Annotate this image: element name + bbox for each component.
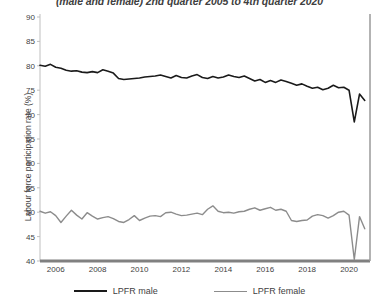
legend-label: LPFR male: [113, 286, 158, 296]
legend-item-lpfr-female[interactable]: LPFR female: [214, 286, 306, 296]
series-line-lpfr-male: [40, 64, 365, 122]
chart-container: (male and female) 2nd quarter 2005 to 4t…: [0, 0, 379, 300]
chart-legend: LPFR maleLPFR female: [0, 286, 379, 296]
legend-swatch-icon: [214, 291, 247, 292]
legend-item-lpfr-male[interactable]: LPFR male: [74, 286, 158, 296]
legend-label: LPFR female: [253, 286, 306, 296]
plot-area: [0, 0, 379, 300]
legend-swatch-icon: [74, 290, 107, 292]
series-line-lpfr-female: [40, 206, 365, 260]
